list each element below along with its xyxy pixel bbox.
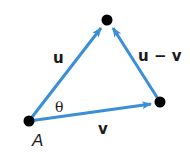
label-point-a: A — [31, 131, 43, 150]
point-right-dot — [155, 97, 166, 108]
label-u-minus-v: u − v — [138, 47, 182, 65]
label-theta: θ — [55, 99, 63, 115]
point-a-dot — [24, 116, 35, 127]
vector-triangle-diagram: u u − v v θ A — [0, 0, 190, 153]
vector-v-arrow — [29, 104, 151, 121]
label-v: v — [98, 120, 108, 138]
vector-u-arrow — [29, 28, 101, 121]
point-top-dot — [102, 15, 113, 26]
label-u: u — [53, 49, 64, 67]
vector-u-minus-v-arrow — [113, 28, 160, 102]
